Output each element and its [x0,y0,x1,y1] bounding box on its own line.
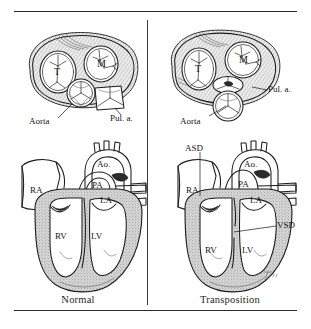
normal-heart-illustration [22,141,146,292]
label-left-ventricle-normal: LV [91,232,102,241]
figure-artwork [0,0,311,329]
label-pulmonary-artery-normal-valves: Pul. a. [110,114,133,123]
caption-transposition: Transposition [160,294,300,305]
label-right-atrium-normal: RA [30,186,43,195]
label-pulmonary-artery-normal-heart: PA [92,181,103,190]
label-left-ventricle-transposition: LV [242,246,253,255]
label-aorta-normal-heart: Ao. [97,160,110,169]
figure-transposition-of-great-arteries: T M Aorta Pul. a. T M Aorta Pul. a. Ao. … [0,0,311,329]
label-left-atrium-normal: LA [100,196,112,205]
normal-valve-illustration [29,32,138,118]
label-aorta-transposition-heart: Ao. [244,160,257,169]
label-right-atrium-transposition: RA [186,186,199,195]
label-tricuspid-valve-normal: T [54,67,60,77]
caption-normal: Normal [8,294,148,305]
label-pulmonary-artery-transposition-valves: Pul. a. [268,85,291,94]
label-right-ventricle-normal: RV [55,232,67,241]
label-tricuspid-valve-transposition: T [195,64,201,74]
label-right-ventricle-transposition: RV [205,246,217,255]
label-mitral-valve-transposition: M [239,55,248,65]
label-aorta-transposition-valves: Aorta [180,117,201,126]
transposition-valve-illustration [171,30,280,121]
label-pulmonary-artery-transposition-heart: PA [238,180,249,189]
label-aorta-normal-valves: Aorta [29,117,50,126]
label-ventricular-septal-defect: VSD [277,221,295,230]
label-left-atrium-transposition: LA [250,196,262,205]
label-mitral-valve-normal: M [97,59,106,69]
transposition-heart-illustration [178,141,296,292]
label-atrial-septal-defect: ASD [185,144,203,153]
